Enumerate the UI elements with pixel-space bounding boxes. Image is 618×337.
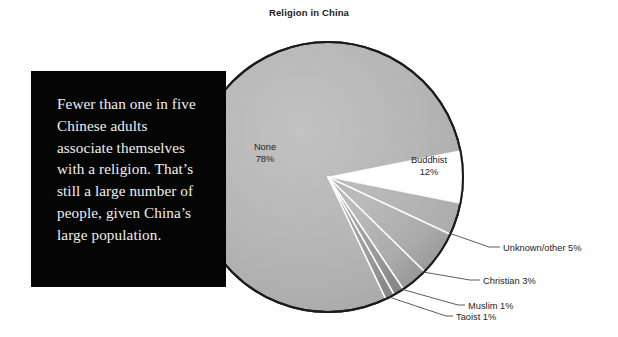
leader-line-christian [423, 272, 480, 280]
leader-line-taoist [389, 297, 453, 316]
chart-canvas: Religion in China [0, 0, 618, 337]
caption-callout-box: Fewer than one in five Chinese adults as… [31, 71, 226, 287]
leader-line-muslim [401, 289, 465, 305]
leader-line-unknown-other [449, 233, 500, 247]
caption-text: Fewer than one in five Chinese adults as… [57, 93, 205, 246]
